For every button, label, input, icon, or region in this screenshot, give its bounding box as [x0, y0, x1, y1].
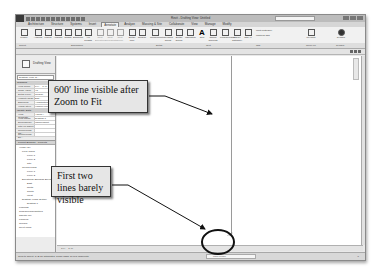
minimize-button[interactable] [343, 16, 349, 20]
measure-icon[interactable] [46, 17, 50, 21]
workset-selector[interactable]: Main Model [206, 254, 256, 259]
ribbon-panel: Modify Aligned Linear Angular Radial Dia… [16, 27, 365, 49]
linear-button[interactable]: Linear [43, 29, 53, 39]
check-spelling-button[interactable]: Check Spelling [208, 29, 218, 39]
3d-view-icon[interactable] [66, 17, 70, 21]
tree-item[interactable]: Revit Links [16, 226, 55, 230]
detail-line-button[interactable]: Detail Line [127, 29, 137, 39]
open-icon[interactable] [26, 17, 30, 21]
radial-dim-icon [65, 29, 72, 36]
thin-lines-icon[interactable] [76, 17, 80, 21]
revit-window: Revit - Drafting View: Untitled Architec… [15, 14, 366, 261]
panel-label-detail: Detail [156, 44, 162, 47]
view-window-controls [350, 50, 361, 53]
status-message: Click to select, TAB for alternates, CTR… [18, 255, 89, 258]
panel-label-color-fill: Color Fill [306, 44, 316, 47]
panel-label-text[interactable]: Text [206, 44, 211, 47]
component-icon [152, 29, 159, 36]
600ft-detail-line[interactable] [231, 56, 232, 235]
insulation-button[interactable]: Insulation [185, 29, 195, 39]
aligned-dim-icon [35, 29, 42, 36]
cursor-icon [21, 29, 28, 36]
arc-length-icon [85, 29, 92, 36]
quick-access-toolbar [26, 17, 85, 21]
revision-cloud-button[interactable]: Revision Cloud [163, 29, 173, 39]
maximize-button[interactable] [350, 16, 356, 20]
keynote-button[interactable]: Keynote [306, 29, 316, 39]
view-scale[interactable]: 1/4" = 1'-0" [61, 247, 73, 250]
redo-icon[interactable] [41, 17, 45, 21]
navigation-bar[interactable] [353, 58, 359, 80]
find-replace-button[interactable]: Find/Replace [220, 29, 230, 39]
spot-elevation-icon [97, 29, 104, 36]
tree-item[interactable]: Elevations (Building Elevation) [16, 178, 55, 182]
panel-label-dimension[interactable]: Dimension [71, 44, 83, 47]
detail-line-icon [129, 29, 136, 36]
detail-group-icon [176, 29, 183, 36]
selection-filter[interactable]: 0 [358, 255, 359, 258]
search-input[interactable] [275, 16, 315, 21]
text-button[interactable]: AText [197, 29, 207, 39]
tag-category-icon [234, 29, 241, 36]
spelling-icon [210, 29, 217, 36]
arc-length-button[interactable]: Arc Length [83, 29, 93, 39]
region-icon [139, 29, 146, 36]
properties-header: Drafting View [16, 56, 55, 74]
angular-dim-icon [55, 29, 62, 36]
dimension-icon[interactable] [51, 17, 55, 21]
application-menu-button[interactable] [16, 15, 24, 22]
spot-elevation-button[interactable]: Spot Elevation [95, 29, 105, 39]
region-button[interactable]: Region [137, 29, 147, 39]
insulation-icon [187, 29, 194, 36]
spot-slope-button[interactable]: Spot Slope [115, 29, 125, 39]
section-icon[interactable] [71, 17, 75, 21]
tag-icon[interactable] [56, 17, 60, 21]
diameter-button[interactable]: Diameter [73, 29, 83, 39]
panel-label-tag[interactable]: Tag [256, 44, 260, 47]
angular-button[interactable]: Angular [53, 29, 63, 39]
panel-label-symbol: Symbol [336, 44, 344, 47]
window-title: Revit - Drafting View: Untitled [171, 15, 210, 22]
tag-all-button[interactable]: Tag All [243, 29, 253, 39]
diameter-dim-icon [75, 29, 82, 36]
vertical-scrollbar[interactable] [361, 56, 365, 245]
linear-dim-icon [45, 29, 52, 36]
spot-coordinate-icon [107, 29, 114, 36]
tag-all-icon [245, 29, 252, 36]
view-control-bar: 1/4" = 1'-0" [57, 245, 363, 251]
title-bar: Revit - Drafting View: Untitled [16, 15, 365, 22]
component-button[interactable]: Component [150, 29, 160, 39]
undo-icon[interactable] [36, 17, 40, 21]
revision-cloud-icon [165, 29, 172, 36]
text-icon: A [199, 29, 206, 36]
callout-zoom-to-fit: 600′ line visible after Zoom to Fit [48, 80, 148, 113]
short-detail-lines[interactable] [227, 232, 233, 236]
close-hidden-icon[interactable] [81, 17, 85, 21]
prop-row: Referencing De... [16, 133, 55, 137]
tag-by-category-button[interactable]: Tag by Category [232, 29, 242, 39]
save-icon[interactable] [31, 17, 35, 21]
radial-button[interactable]: Radial [63, 29, 73, 39]
panel-label-select[interactable]: Select [19, 44, 26, 47]
callout-first-two-lines: First two lines barely visible [51, 166, 111, 197]
text-icon[interactable] [61, 17, 65, 21]
window-controls [343, 16, 363, 20]
view-tab-bar [16, 49, 365, 55]
aligned-button[interactable]: Aligned [33, 29, 43, 39]
status-bar: Click to select, TAB for alternates, CTR… [16, 252, 365, 260]
close-button[interactable] [357, 16, 363, 20]
spot-coordinate-button[interactable]: Spot Coordinate [105, 29, 115, 39]
view-minimize-button[interactable] [350, 50, 353, 53]
keynote-icon [308, 29, 315, 36]
detail-group-button[interactable]: Detail Group [174, 29, 184, 39]
symbol-button[interactable]: Symbol [336, 29, 346, 39]
modify-button[interactable]: Modify [19, 29, 29, 39]
project-browser-tree: Views (all) Floor Plans Level 1 Level 2 … [16, 145, 55, 237]
spot-slope-icon [117, 29, 124, 36]
family-name: Drafting View [33, 61, 53, 65]
view-close-button[interactable] [358, 50, 361, 53]
symbol-icon [338, 29, 345, 36]
drafting-view-icon [22, 60, 30, 68]
view-restore-button[interactable] [354, 50, 357, 53]
find-replace-icon [222, 29, 229, 36]
